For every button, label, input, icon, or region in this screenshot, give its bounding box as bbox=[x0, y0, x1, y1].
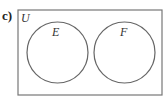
venn-diagram: U E F bbox=[0, 0, 164, 96]
set-e-label: E bbox=[51, 25, 60, 39]
universal-set-label: U bbox=[21, 11, 31, 25]
universal-set-rectangle bbox=[18, 10, 162, 95]
set-f-label: F bbox=[119, 25, 128, 39]
